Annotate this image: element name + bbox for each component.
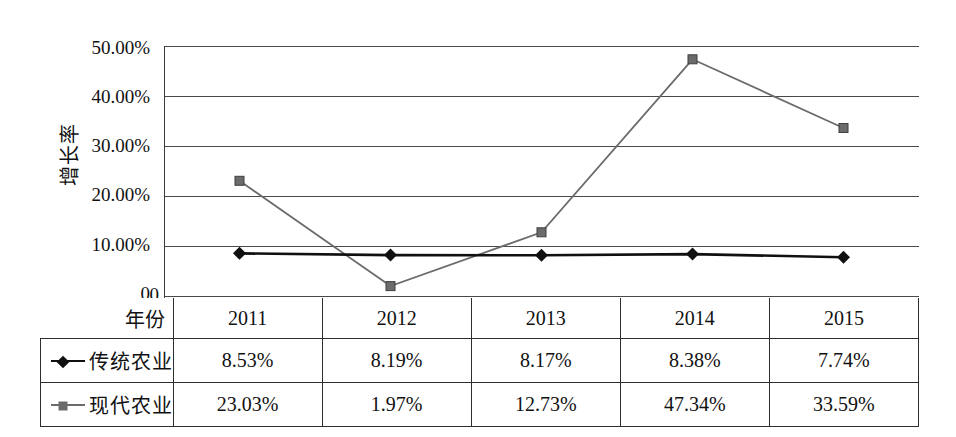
data-point-modern-2014 [688,55,697,64]
cell-modern-2012: 1.97% [322,383,471,427]
legend-label-modern: 现代农业 [89,390,173,419]
data-point-modern-2015 [839,124,848,133]
legend-modern: 现代农业 [41,383,174,427]
cell-traditional-2011: 8.53% [173,339,322,383]
table-col-header-2015: 2015 [769,298,918,339]
legend-label-traditional: 传统农业 [89,346,173,375]
cell-modern-2014: 47.34% [620,383,769,427]
data-table-region: 0 年份 2011 2012 2013 2014 2015 传统农业 [0,298,956,437]
cell-modern-2011: 23.03% [173,383,322,427]
table-col-header-2013: 2013 [471,298,620,339]
data-point-modern-2011 [235,176,244,185]
table-row-traditional: 传统农业 8.53% 8.19% 8.17% 8.38% 7.74% [41,339,919,383]
table-col-header-2012: 2012 [322,298,471,339]
cell-traditional-2014: 8.38% [620,339,769,383]
legend-traditional: 传统农业 [41,339,174,383]
data-point-modern-2013 [537,228,546,237]
table-col-header-2011: 2011 [173,298,322,339]
square-marker-icon [59,401,68,410]
data-point-traditional-2011 [233,247,246,260]
chart-plot-region: 增长率 50.00% 40.00% 30.00% 20.00% 10.00% 0 [0,0,956,300]
cell-traditional-2012: 8.19% [322,339,471,383]
cell-modern-2013: 12.73% [471,383,620,427]
data-table: 年份 2011 2012 2013 2014 2015 传统农业 8.53% [40,298,919,427]
chart-figure: 增长率 50.00% 40.00% 30.00% 20.00% 10.00% 0… [0,0,956,437]
data-point-traditional-2012 [384,249,397,262]
series-overlay [0,0,956,300]
diamond-marker-icon [57,355,70,368]
data-point-traditional-2015 [837,251,850,264]
data-point-traditional-2013 [535,249,548,262]
cell-traditional-2015: 7.74% [769,339,918,383]
cell-modern-2015: 33.59% [769,383,918,427]
data-point-traditional-2014 [686,248,699,261]
table-header-row: 年份 2011 2012 2013 2014 2015 [41,298,919,339]
table-row-header-label: 年份 [41,298,174,339]
table-col-header-2014: 2014 [620,298,769,339]
table-row-modern: 现代农业 23.03% 1.97% 12.73% 47.34% 33.59% [41,383,919,427]
cell-traditional-2013: 8.17% [471,339,620,383]
legend-line-icon-traditional [51,360,85,362]
legend-line-icon-modern [51,404,85,406]
data-point-modern-2012 [386,282,395,291]
